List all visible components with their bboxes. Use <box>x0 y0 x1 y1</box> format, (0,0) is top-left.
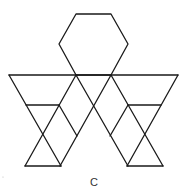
triangle-edge <box>76 75 128 166</box>
triangle-edge <box>110 105 128 136</box>
triangle-edge <box>9 75 61 166</box>
hexagon-face <box>59 14 128 75</box>
stray-dot <box>2 176 3 177</box>
figure-label: C <box>90 176 98 188</box>
net-lines <box>9 14 178 166</box>
triangle-edge <box>59 105 77 136</box>
geometric-net-diagram: C <box>0 0 182 189</box>
triangle-edge <box>127 75 178 166</box>
